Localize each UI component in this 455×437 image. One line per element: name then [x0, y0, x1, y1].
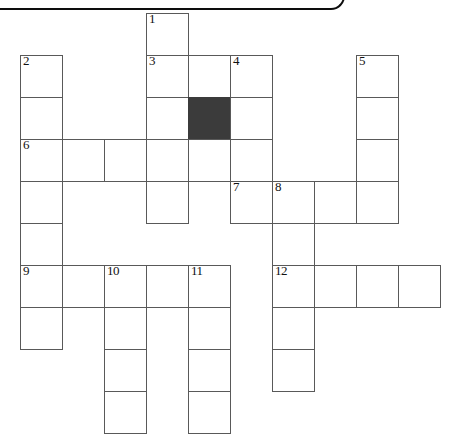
clue-number-1: 1 — [149, 12, 155, 26]
crossword-cell[interactable] — [398, 265, 441, 308]
crossword-grid[interactable]: 123456789101112 — [0, 0, 455, 437]
crossword-cell[interactable] — [188, 139, 231, 182]
crossword-cell[interactable] — [146, 265, 189, 308]
crossword-cell[interactable]: 11 — [188, 265, 231, 308]
crossword-cell[interactable] — [356, 97, 399, 140]
crossword-cell[interactable]: 3 — [146, 55, 189, 98]
crossword-cell[interactable] — [104, 391, 147, 434]
crossword-cell[interactable]: 2 — [20, 55, 63, 98]
clue-number-11: 11 — [191, 264, 203, 278]
crossword-cell[interactable] — [20, 181, 63, 224]
crossword-cell[interactable] — [146, 181, 189, 224]
clue-number-8: 8 — [275, 180, 281, 194]
crossword-page: 123456789101112 — [0, 0, 455, 437]
crossword-cell[interactable] — [104, 349, 147, 392]
clue-number-9: 9 — [23, 264, 29, 278]
crossword-cell[interactable] — [20, 97, 63, 140]
crossword-cell[interactable]: 7 — [230, 181, 273, 224]
clue-number-7: 7 — [233, 180, 239, 194]
crossword-cell[interactable] — [272, 223, 315, 266]
clue-number-12: 12 — [275, 264, 287, 278]
crossword-cell[interactable] — [20, 223, 63, 266]
clue-number-2: 2 — [23, 54, 29, 68]
crossword-cell[interactable] — [272, 307, 315, 350]
crossword-cell[interactable] — [356, 139, 399, 182]
crossword-cell[interactable]: 6 — [20, 139, 63, 182]
crossword-cell[interactable]: 12 — [272, 265, 315, 308]
crossword-cell[interactable] — [272, 349, 315, 392]
clue-number-10: 10 — [107, 264, 119, 278]
crossword-cell[interactable] — [146, 139, 189, 182]
crossword-cell[interactable]: 9 — [20, 265, 63, 308]
crossword-cell[interactable] — [62, 139, 105, 182]
crossword-cell[interactable]: 5 — [356, 55, 399, 98]
crossword-cell[interactable]: 4 — [230, 55, 273, 98]
crossword-cell[interactable] — [104, 139, 147, 182]
crossword-cell[interactable]: 10 — [104, 265, 147, 308]
crossword-cell[interactable] — [62, 265, 105, 308]
crossword-cell[interactable] — [188, 307, 231, 350]
crossword-cell[interactable]: 1 — [146, 13, 189, 56]
crossword-cell[interactable]: 8 — [272, 181, 315, 224]
crossword-cell[interactable] — [188, 391, 231, 434]
crossword-cell[interactable] — [104, 307, 147, 350]
crossword-cell[interactable] — [356, 181, 399, 224]
crossword-cell[interactable] — [356, 265, 399, 308]
blocked-cell — [188, 97, 231, 140]
crossword-cell[interactable] — [314, 265, 357, 308]
crossword-cell[interactable] — [188, 349, 231, 392]
crossword-cell[interactable] — [146, 97, 189, 140]
crossword-cell[interactable] — [314, 181, 357, 224]
clue-number-4: 4 — [233, 54, 239, 68]
clue-number-3: 3 — [149, 54, 155, 68]
crossword-cell[interactable] — [230, 97, 273, 140]
crossword-cell[interactable] — [230, 139, 273, 182]
crossword-cell[interactable] — [20, 307, 63, 350]
clue-number-5: 5 — [359, 54, 365, 68]
crossword-cell[interactable] — [188, 55, 231, 98]
clue-number-6: 6 — [23, 138, 29, 152]
